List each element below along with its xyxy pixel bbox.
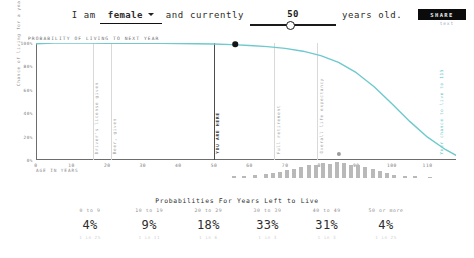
probability-range: 30 to 39 xyxy=(240,208,296,213)
histogram-bar xyxy=(242,176,246,179)
current-age-marker[interactable] xyxy=(233,41,239,47)
histogram-bar xyxy=(378,171,382,178)
probability-cell: 0 to 94%1 in 25 xyxy=(62,208,118,240)
histogram-bar xyxy=(314,165,318,179)
gender-select-value: female xyxy=(108,10,143,20)
probability-odds: 1 in 3 xyxy=(299,235,355,240)
probability-range: 20 to 29 xyxy=(180,208,236,213)
probability-odds: 1 in 25 xyxy=(358,235,414,240)
probability-value: 9% xyxy=(121,218,177,232)
chevron-down-icon xyxy=(148,13,154,16)
probability-range: 10 to 19 xyxy=(121,208,177,213)
y-tick-label: 40% xyxy=(24,111,33,116)
share-button-label: SHARE xyxy=(430,12,454,18)
chart-title: PROBABILITY OF LIVING TO NEXT YEAR xyxy=(28,36,159,41)
age-at-death-histogram xyxy=(36,160,456,178)
gender-select[interactable]: female xyxy=(100,6,162,24)
y-tick-label: 0% xyxy=(27,158,33,163)
sentence-suffix: years old. xyxy=(342,6,402,20)
probability-cell: 20 to 2918%1 in 6 xyxy=(180,208,236,240)
survival-curve-plot: 100%80%60%40%20%0% 010203040506070809010… xyxy=(36,43,456,160)
histogram-bar xyxy=(271,173,275,178)
histogram-bar xyxy=(403,176,407,179)
y-tick-label: 80% xyxy=(24,64,33,69)
histogram-bar xyxy=(292,169,296,178)
probability-range: 50 or more xyxy=(358,208,414,213)
histogram-bar xyxy=(321,163,325,178)
age-slider-value: 50 xyxy=(250,9,336,19)
probability-value: 4% xyxy=(358,218,414,232)
probability-odds: 1 in 25 xyxy=(62,235,118,240)
probabilities-title: Probabilities For Years Left to Live xyxy=(0,197,474,205)
probability-value: 33% xyxy=(240,218,296,232)
histogram-bar xyxy=(299,167,303,178)
probability-odds: 1 in 6 xyxy=(180,235,236,240)
histogram-bar xyxy=(285,170,289,178)
histogram-bar xyxy=(307,165,311,178)
probability-odds: 1 in 11 xyxy=(121,235,177,240)
histogram-bar xyxy=(428,177,432,178)
probability-value: 18% xyxy=(180,218,236,232)
histogram-bar xyxy=(371,169,375,178)
sentence-middle: and currently xyxy=(166,6,244,20)
probability-cell: 10 to 199%1 in 11 xyxy=(121,208,177,240)
age-slider[interactable]: 50 xyxy=(250,6,336,26)
histogram-bar xyxy=(253,175,257,178)
probability-cell: 50 or more4%1 in 25 xyxy=(358,208,414,240)
y-tick-label: 20% xyxy=(24,134,33,139)
histogram-bar xyxy=(278,172,282,178)
share-button[interactable]: SHARE xyxy=(418,9,466,20)
y-tick-label: 100% xyxy=(20,41,33,46)
histogram-bar xyxy=(363,167,367,178)
histogram-bar xyxy=(264,174,268,178)
probabilities-table: 0 to 94%1 in 2510 to 199%1 in 1120 to 29… xyxy=(62,208,414,240)
histogram-bar xyxy=(413,176,417,178)
probability-value: 4% xyxy=(62,218,118,232)
probability-range: 40 to 49 xyxy=(299,208,355,213)
input-sentence-bar: I am female and currently 50 years old. xyxy=(0,6,474,32)
probability-cell: 30 to 3933%1 in 3 xyxy=(240,208,296,240)
histogram-bar xyxy=(335,162,339,178)
probability-value: 31% xyxy=(299,218,355,232)
age-slider-track[interactable] xyxy=(250,24,336,26)
histogram-bar xyxy=(392,175,396,178)
survival-curve xyxy=(36,43,456,160)
histogram-bar xyxy=(385,173,389,178)
histogram-bar xyxy=(232,176,236,178)
probability-cell: 40 to 4931%1 in 3 xyxy=(299,208,355,240)
histogram-bar xyxy=(342,163,346,178)
y-tick-label: 60% xyxy=(24,87,33,92)
share-button-sublabel: text xyxy=(440,21,454,26)
probability-odds: 1 in 3 xyxy=(240,235,296,240)
histogram-bar xyxy=(328,164,332,178)
histogram-bar xyxy=(356,165,360,178)
age-slider-knob[interactable] xyxy=(286,21,295,30)
histogram-bar xyxy=(349,165,353,179)
sentence-prefix: I am xyxy=(72,6,96,20)
probability-range: 0 to 9 xyxy=(62,208,118,213)
